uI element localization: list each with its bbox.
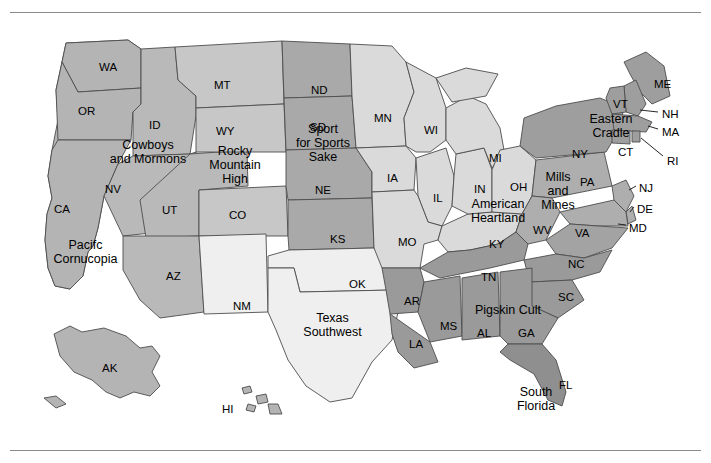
- state-label-ne: NE: [315, 184, 331, 197]
- region-label-eastern-cradle: Eastern Cradle: [578, 112, 644, 140]
- state-label-ks: KS: [330, 233, 345, 246]
- state-label-ok: OK: [349, 278, 366, 291]
- state-label-mi: MI: [489, 152, 502, 165]
- state-label-nc: NC: [568, 258, 585, 271]
- state-label-sc: SC: [558, 291, 574, 304]
- region-label-cowboys-and-mormons: Cowboys and Mormons: [88, 138, 208, 166]
- region-label-mills-and-mines: Mills and Mines: [530, 170, 586, 212]
- state-label-or: OR: [78, 105, 95, 118]
- state-label-il: IL: [433, 192, 443, 205]
- state-ak-islands: [44, 396, 66, 408]
- state-label-ut: UT: [162, 204, 177, 217]
- state-label-tn: TN: [481, 271, 496, 284]
- state-label-va: VA: [575, 227, 590, 240]
- state-wi: [404, 62, 446, 152]
- state-label-mt: MT: [214, 79, 231, 92]
- region-label-rocky-mountain-high: Rocky Mountain High: [196, 144, 274, 186]
- state-mi-up: [436, 68, 498, 102]
- state-label-ia: IA: [387, 172, 398, 185]
- state-label-ny: NY: [572, 148, 588, 161]
- state-label-nv: NV: [105, 183, 121, 196]
- state-label-ca: CA: [54, 203, 70, 216]
- state-label-nj: NJ: [639, 182, 653, 195]
- state-label-in: IN: [474, 183, 486, 196]
- state-label-az: AZ: [166, 270, 181, 283]
- state-label-ga: GA: [518, 327, 535, 340]
- state-label-sd: SD: [310, 121, 326, 134]
- state-label-wv: WV: [533, 224, 552, 237]
- region-label-pacific-cornucopia: Pacifc Cornucopia: [33, 238, 138, 266]
- state-label-co: CO: [229, 209, 246, 222]
- map-figure: Cowboys and Mormons Rocky Mountain High …: [0, 0, 711, 463]
- state-label-wi: WI: [424, 124, 438, 137]
- state-label-nd: ND: [311, 84, 328, 97]
- state-label-pa: PA: [580, 176, 595, 189]
- state-label-ms: MS: [440, 320, 457, 333]
- state-label-wa: WA: [99, 61, 117, 74]
- region-label-texas-southwest: Texas Southwest: [285, 311, 380, 339]
- state-label-ri: RI: [667, 155, 679, 168]
- state-label-fl: FL: [559, 379, 572, 392]
- state-label-la: LA: [409, 338, 423, 351]
- state-label-ak: AK: [102, 362, 117, 375]
- state-label-id: ID: [149, 119, 161, 132]
- state-label-me: ME: [654, 78, 671, 91]
- state-label-vt: VT: [613, 98, 628, 111]
- state-label-hi: HI: [222, 403, 234, 416]
- state-label-oh: OH: [510, 181, 527, 194]
- state-label-nm: NM: [233, 300, 251, 313]
- state-label-mo: MO: [398, 236, 417, 249]
- state-label-md: MD: [629, 222, 647, 235]
- state-label-de: DE: [637, 203, 653, 216]
- state-label-nh: NH: [662, 108, 679, 121]
- state-hi: [242, 386, 282, 414]
- state-label-al: AL: [477, 327, 491, 340]
- state-label-mn: MN: [374, 112, 392, 125]
- region-label-south-florida: South Florida: [506, 385, 566, 413]
- state-label-ar: AR: [404, 295, 420, 308]
- state-label-wy: WY: [216, 125, 235, 138]
- region-label-pigskin-cult: Pigskin Cult: [463, 303, 553, 317]
- state-label-ky: KY: [489, 238, 504, 251]
- state-label-ct: CT: [618, 146, 633, 159]
- state-label-ma: MA: [662, 126, 679, 139]
